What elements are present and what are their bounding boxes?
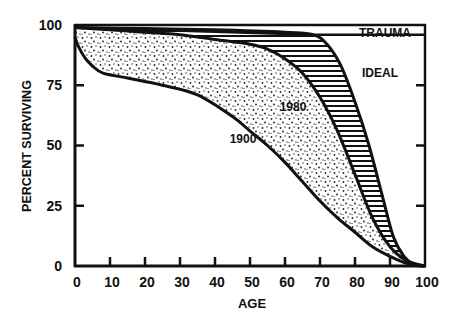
x-tick-label: 50 <box>244 274 260 290</box>
y-tick-label: 25 <box>46 198 62 214</box>
ideal-label: IDEAL <box>362 66 398 80</box>
x-tick-label: 0 <box>73 274 81 290</box>
x-tick-label: 90 <box>384 274 400 290</box>
y-tick-label: 0 <box>54 258 62 274</box>
x-tick-label: 80 <box>349 274 365 290</box>
survival-chart: 0 25 50 75 100 0 10 20 30 40 50 60 70 80… <box>0 0 457 324</box>
x-tick-label: 70 <box>314 274 330 290</box>
label-1900: 1900 <box>230 132 257 146</box>
x-tick-label: 30 <box>174 274 190 290</box>
y-tick-labels: 0 25 50 75 100 <box>39 17 63 274</box>
trauma-label: TRAUMA <box>359 26 411 40</box>
y-tick-label: 50 <box>46 137 62 153</box>
x-tick-label: 40 <box>209 274 225 290</box>
fill-1900-1980 <box>75 27 425 266</box>
y-tick-label: 100 <box>39 17 63 33</box>
x-axis-title: AGE <box>238 296 267 311</box>
y-axis-title: PERCENT SURVIVING <box>20 80 34 212</box>
x-tick-label: 10 <box>104 274 120 290</box>
x-tick-labels: 0 10 20 30 40 50 60 70 80 90 100 <box>73 274 439 290</box>
plot-area <box>75 27 425 266</box>
y-tick-label: 75 <box>46 77 62 93</box>
x-tick-label: 20 <box>139 274 155 290</box>
x-tick-label: 60 <box>279 274 295 290</box>
label-1980: 1980 <box>280 100 307 114</box>
x-tick-label: 100 <box>415 274 439 290</box>
